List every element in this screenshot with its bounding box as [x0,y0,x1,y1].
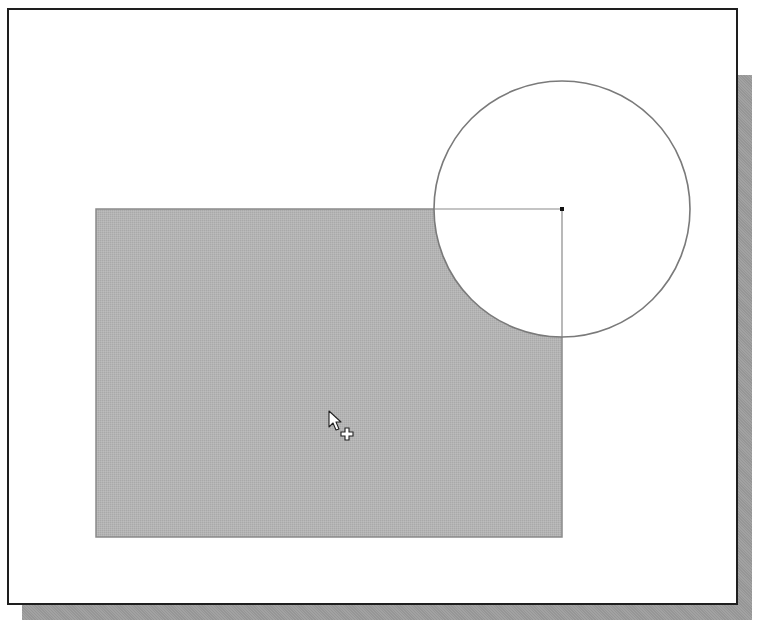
selected-region[interactable] [96,209,562,537]
cad-sketch-stage [0,0,761,633]
circle-center-marker[interactable] [560,207,564,211]
add-selection-cursor-icon [328,410,358,446]
sketch-canvas[interactable] [0,0,761,633]
